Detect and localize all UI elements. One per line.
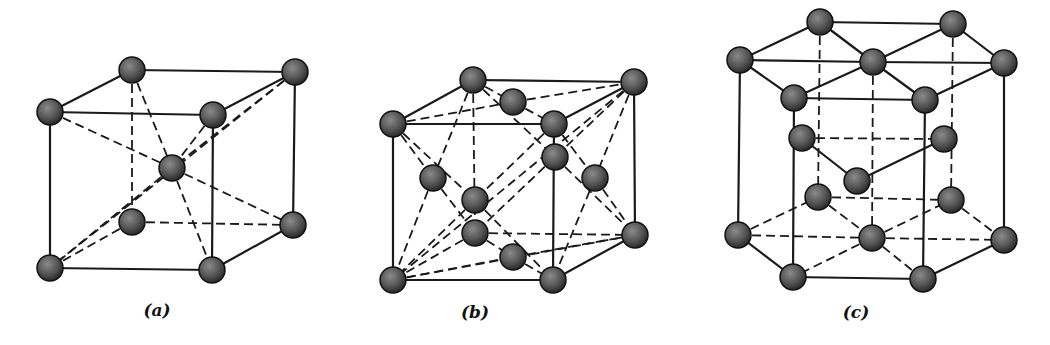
dashed-bond bbox=[50, 222, 132, 268]
solid-edge bbox=[50, 268, 212, 270]
solid-edge bbox=[473, 80, 634, 82]
atom bbox=[859, 225, 885, 251]
dashed-bond bbox=[595, 82, 634, 178]
solid-edge bbox=[793, 277, 923, 279]
atom bbox=[119, 209, 145, 235]
atom bbox=[991, 50, 1017, 76]
atom bbox=[622, 222, 648, 248]
atom bbox=[844, 168, 870, 194]
dashed-bond bbox=[172, 168, 212, 270]
solid-edge bbox=[820, 22, 953, 24]
atom bbox=[542, 144, 568, 170]
solid-edge bbox=[923, 100, 925, 279]
panel-fcc: (b) bbox=[380, 67, 648, 322]
atom bbox=[621, 69, 647, 95]
panel-label: (c) bbox=[843, 302, 869, 322]
atom bbox=[582, 165, 608, 191]
dashed-bond bbox=[872, 238, 1004, 240]
dashed-bond bbox=[172, 72, 295, 168]
atom bbox=[805, 184, 831, 210]
atom bbox=[282, 59, 308, 85]
solid-edge bbox=[857, 139, 944, 181]
atom bbox=[200, 102, 226, 128]
solid-edge bbox=[793, 98, 794, 277]
panel-hcp: (c) bbox=[725, 9, 1017, 322]
atom bbox=[860, 49, 886, 75]
atom bbox=[541, 111, 567, 137]
atom bbox=[807, 9, 833, 35]
solid-edge bbox=[213, 72, 295, 115]
atom bbox=[789, 125, 815, 151]
atom bbox=[460, 67, 486, 93]
atom bbox=[780, 264, 806, 290]
dashed-bond bbox=[172, 168, 293, 225]
dashed-bond bbox=[50, 168, 172, 268]
atom bbox=[500, 244, 526, 270]
dashed-bond bbox=[872, 62, 873, 238]
solid-edge bbox=[132, 70, 295, 72]
dashed-bond bbox=[818, 197, 951, 200]
atom bbox=[725, 222, 751, 248]
dashed-bond bbox=[951, 24, 953, 200]
atom bbox=[781, 85, 807, 111]
atom bbox=[199, 257, 225, 283]
atom bbox=[37, 255, 63, 281]
solid-edge bbox=[50, 70, 132, 112]
atom bbox=[462, 220, 488, 246]
atom bbox=[159, 155, 185, 181]
dashed-bond bbox=[818, 22, 820, 197]
solid-edge bbox=[634, 82, 635, 235]
dashed-bond bbox=[433, 80, 473, 178]
dashed-bond bbox=[802, 138, 944, 139]
atom bbox=[540, 267, 566, 293]
panel-label: (a) bbox=[143, 300, 170, 320]
solid-edge bbox=[50, 112, 213, 115]
atom bbox=[500, 89, 526, 115]
solid-edge bbox=[738, 60, 740, 235]
atom bbox=[912, 87, 938, 113]
crystal-structures-figure: (a) (b) (c) bbox=[0, 0, 1050, 345]
solid-edge bbox=[740, 60, 873, 62]
dashed-bond bbox=[475, 233, 635, 235]
atom bbox=[37, 99, 63, 125]
atom bbox=[910, 266, 936, 292]
atom bbox=[119, 57, 145, 83]
atom bbox=[931, 126, 957, 152]
solid-edge bbox=[794, 98, 925, 100]
atom bbox=[938, 187, 964, 213]
solid-edge bbox=[212, 115, 213, 270]
atom bbox=[280, 212, 306, 238]
solid-edge bbox=[212, 225, 293, 270]
atom bbox=[991, 227, 1017, 253]
atom bbox=[420, 165, 446, 191]
dashed-bond bbox=[475, 124, 554, 200]
dashed-bond bbox=[553, 178, 595, 280]
dashed-bond bbox=[50, 112, 172, 168]
atom bbox=[940, 11, 966, 37]
dashed-bond bbox=[738, 235, 872, 238]
solid-edge bbox=[293, 72, 295, 225]
atom bbox=[727, 47, 753, 73]
atom bbox=[380, 111, 406, 137]
dashed-bond bbox=[132, 70, 172, 168]
solid-edge bbox=[873, 62, 1004, 63]
atom bbox=[380, 267, 406, 293]
atom bbox=[462, 187, 488, 213]
panel-bcc: (a) bbox=[37, 57, 308, 320]
panel-label: (b) bbox=[461, 302, 489, 322]
